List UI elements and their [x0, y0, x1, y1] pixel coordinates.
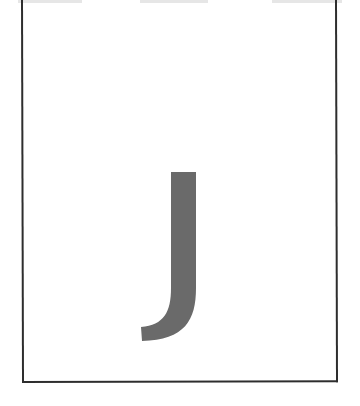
letter-j-glyph: J	[130, 160, 210, 350]
